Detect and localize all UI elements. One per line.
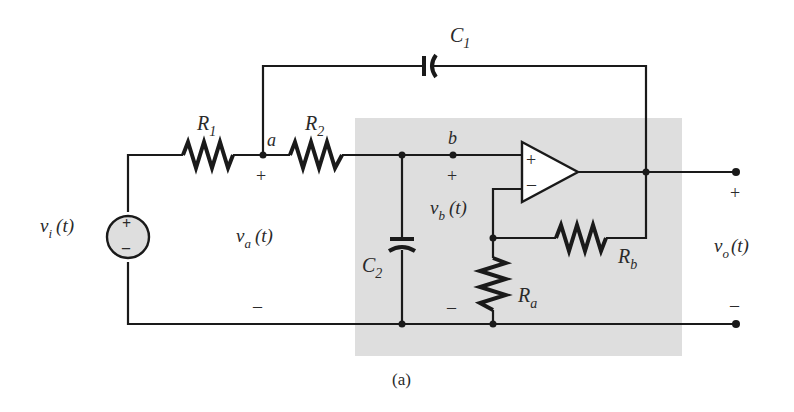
vb-minus: –	[446, 297, 457, 317]
label-r2: R2	[304, 112, 324, 139]
label-vo: vo(t)	[714, 235, 749, 261]
label-va: va(t)	[236, 225, 273, 251]
vo-minus: –	[729, 295, 740, 315]
node-a-label: a	[267, 130, 276, 150]
va-minus: –	[252, 296, 263, 316]
resistor-r1	[183, 142, 233, 168]
opamp-plus: +	[526, 150, 536, 170]
va-plus: +	[256, 166, 266, 186]
node-b-label: b	[448, 128, 457, 148]
label-vi: vi(t)	[40, 215, 74, 241]
figure-caption: (a)	[392, 370, 411, 389]
label-c1: C1	[450, 24, 470, 51]
source-plus: +	[122, 215, 131, 232]
source-minus: –	[121, 239, 131, 256]
vb-plus: +	[447, 166, 457, 186]
opamp-minus: –	[526, 174, 537, 194]
label-r1: R1	[196, 112, 216, 139]
resistor-r2	[290, 142, 342, 168]
circuit-diagram: + – + – R1 R2 C1 C2 Ra Rb a b vi(t) + va…	[0, 0, 794, 412]
vo-plus: +	[730, 183, 740, 203]
